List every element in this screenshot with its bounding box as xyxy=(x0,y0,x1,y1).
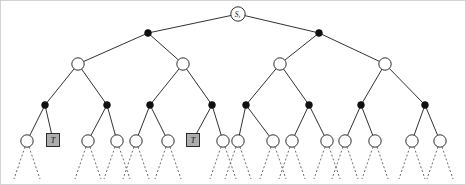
leaf-descender-d3 xyxy=(104,147,115,179)
open-circle-icon xyxy=(162,135,174,147)
frontier-node-d5 xyxy=(162,135,174,147)
tree-edge-c0-d1 xyxy=(46,108,52,133)
tree-edge-c7-d15 xyxy=(426,108,437,135)
expanded-node-c6 xyxy=(358,102,365,109)
filled-dot-icon xyxy=(358,102,365,109)
terminal-box-label: T xyxy=(51,136,56,145)
tree-edge-b1-c2 xyxy=(152,69,179,103)
frontier-node-b0 xyxy=(72,58,84,70)
expanded-node-c5 xyxy=(306,102,313,109)
tree-edge-b1-c3 xyxy=(187,69,210,102)
leaf-descender-d9 xyxy=(260,147,271,179)
tree-edge-c4-d8 xyxy=(239,108,245,135)
tree-edge-c5-d11 xyxy=(311,108,325,135)
terminal-node-d1: T xyxy=(47,134,60,147)
leaf-descender-d15 xyxy=(442,147,453,179)
tree-edge-b2-c4 xyxy=(248,69,276,103)
tree-edge-a1-b3 xyxy=(322,34,379,61)
tree-edge-c3-d7 xyxy=(213,108,221,135)
leaf-descender-edges xyxy=(14,147,453,179)
leaf-descender-d12 xyxy=(347,147,358,179)
expanded-node-c3 xyxy=(209,102,216,109)
terminal-box-label: T xyxy=(191,136,196,145)
filled-dot-icon xyxy=(306,102,313,109)
frontier-node-d7 xyxy=(217,135,229,147)
frontier-node-d4 xyxy=(130,135,142,147)
tree-edge-c1-d3 xyxy=(108,108,115,135)
open-circle-icon xyxy=(72,58,84,70)
filled-dot-icon xyxy=(145,30,152,37)
open-circle-icon xyxy=(321,135,333,147)
filled-dot-icon xyxy=(422,102,429,109)
frontier-node-d9 xyxy=(267,135,279,147)
tree-edge-r0-a1 xyxy=(245,16,316,33)
tree-edge-c3-d6 xyxy=(196,108,210,134)
frontier-node-b1 xyxy=(177,58,189,70)
leaf-descender-d12 xyxy=(332,147,343,179)
tree-edge-b0-c1 xyxy=(82,69,105,102)
frontier-node-d2 xyxy=(82,135,94,147)
leaf-descender-d4 xyxy=(138,147,149,179)
frontier-node-d12 xyxy=(339,135,351,147)
tree-edge-c2-d4 xyxy=(138,108,149,135)
tree-edge-c6-d13 xyxy=(362,108,373,135)
open-circle-icon xyxy=(267,135,279,147)
leaf-descender-d2 xyxy=(90,147,101,179)
leaf-descender-d10 xyxy=(294,147,305,179)
expanded-node-c2 xyxy=(147,102,154,109)
tree-edge-r0-a0 xyxy=(151,15,231,32)
figure-frame-rect xyxy=(1,1,466,185)
tree-canvas: TTSt xyxy=(0,0,466,185)
leaf-descender-d5 xyxy=(155,147,166,179)
tree-edge-c0-d0 xyxy=(30,108,44,135)
filled-dot-icon xyxy=(209,102,216,109)
tree-diagram-figure: TTSt xyxy=(0,0,466,185)
tree-edge-c4-d9 xyxy=(248,108,269,136)
frontier-node-d0 xyxy=(21,135,33,147)
tree-edge-b3-c6 xyxy=(363,69,382,102)
leaf-descender-d0 xyxy=(14,147,25,179)
frontier-node-d14 xyxy=(406,135,418,147)
open-circle-icon xyxy=(21,135,33,147)
leaf-descender-d13 xyxy=(362,147,373,179)
open-circle-icon xyxy=(339,135,351,147)
tree-edge-a1-b2 xyxy=(285,35,316,60)
terminal-node-d6: T xyxy=(187,134,200,147)
tree-edge-a0-b0 xyxy=(84,34,145,61)
figure-frame xyxy=(1,1,466,185)
frontier-node-d3 xyxy=(111,135,123,147)
filled-dot-icon xyxy=(243,102,250,109)
frontier-node-d13 xyxy=(369,135,381,147)
frontier-node-b3 xyxy=(379,58,391,70)
tree-edge-b0-c0 xyxy=(47,69,74,103)
open-circle-icon xyxy=(111,135,123,147)
leaf-descender-d0 xyxy=(29,147,40,179)
expanded-node-c0 xyxy=(42,102,49,109)
tree-edge-a0-b1 xyxy=(151,35,179,60)
frontier-node-d10 xyxy=(286,135,298,147)
tree-edge-c6-d12 xyxy=(348,108,360,135)
filled-dot-icon xyxy=(147,102,154,109)
leaf-descender-d2 xyxy=(75,147,86,179)
leaf-descender-d11 xyxy=(314,147,325,179)
open-circle-icon xyxy=(369,135,381,147)
leaf-descender-d13 xyxy=(377,147,388,179)
leaf-descender-d14 xyxy=(414,147,425,179)
tree-edge-b2-c5 xyxy=(284,69,307,102)
tree-edge-b3-c7 xyxy=(389,68,422,102)
frontier-node-d11 xyxy=(321,135,333,147)
expanded-node-a0 xyxy=(145,30,152,37)
open-circle-icon xyxy=(406,135,418,147)
tree-edges xyxy=(30,15,438,136)
frontier-node-d8 xyxy=(232,135,244,147)
tree-edge-c2-d5 xyxy=(152,108,166,135)
frontier-node-b2 xyxy=(274,58,286,70)
frontier-node-d15 xyxy=(434,135,446,147)
open-circle-icon xyxy=(177,58,189,70)
filled-dot-icon xyxy=(42,102,49,109)
root-node-r0: St xyxy=(231,7,245,21)
tree-nodes: TTSt xyxy=(21,7,446,147)
expanded-node-c7 xyxy=(422,102,429,109)
open-circle-icon xyxy=(379,58,391,70)
open-circle-icon xyxy=(130,135,142,147)
